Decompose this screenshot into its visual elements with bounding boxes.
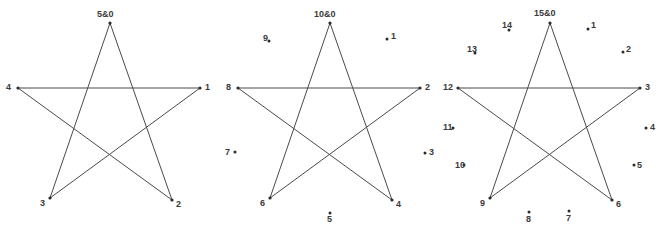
label-star1-bottom-right: 2 — [176, 200, 181, 209]
outer-dot — [645, 127, 648, 130]
vertex-dot — [328, 21, 331, 24]
label-star2-dot-3: 3 — [429, 148, 434, 157]
label-star3-dot-11: 11 — [443, 123, 453, 132]
star-diagram-mod-15: 15&0 3 6 9 12 1 2 4 5 7 8 10 11 13 14 — [440, 0, 660, 229]
figure-container: 5&0 1 2 3 4 10&0 2 4 6 8 1 — [0, 0, 660, 229]
star-edge — [330, 23, 392, 200]
vertex-dot — [488, 196, 491, 199]
vertex-dot — [236, 86, 239, 89]
label-star2-dot-7: 7 — [225, 148, 230, 157]
vertex-dot — [108, 21, 111, 24]
star-edge — [490, 23, 550, 198]
label-star2-dot-1: 1 — [391, 32, 396, 41]
star-edge — [490, 88, 640, 198]
label-star3-bottom-left: 9 — [480, 199, 485, 208]
label-star3-dot-4: 4 — [650, 123, 655, 132]
star-edge — [550, 23, 612, 200]
vertex-dot — [390, 198, 393, 201]
vertex-dot — [268, 196, 271, 199]
outer-dot — [587, 28, 590, 31]
label-star1-apex: 5&0 — [97, 10, 114, 19]
star-edge — [50, 88, 200, 198]
star-10-graphic — [220, 0, 440, 229]
vertex-dot — [456, 86, 459, 89]
label-star3-dot-14: 14 — [502, 21, 512, 30]
label-star1-bottom-left: 3 — [40, 199, 45, 208]
outer-dot — [386, 38, 389, 41]
star-edge — [238, 88, 392, 200]
vertex-dot — [610, 198, 613, 201]
vertex-dot — [170, 198, 173, 201]
label-star3-dot-10: 10 — [455, 161, 465, 170]
vertex-dot — [198, 86, 201, 89]
label-star3-right: 3 — [645, 83, 650, 92]
label-star3-bottom-right: 6 — [616, 200, 621, 209]
label-star2-bottom-right: 4 — [396, 200, 401, 209]
star-edge — [270, 23, 330, 198]
star-diagram-mod-10: 10&0 2 4 6 8 1 3 5 7 9 — [220, 0, 440, 229]
outer-dot — [234, 151, 237, 154]
vertex-dot — [16, 86, 19, 89]
label-star3-dot-8: 8 — [526, 215, 531, 224]
vertex-dot — [418, 86, 421, 89]
label-star3-dot-5: 5 — [637, 161, 642, 170]
label-star3-dot-13: 13 — [467, 45, 477, 54]
label-star2-dot-5: 5 — [327, 215, 332, 224]
label-star2-dot-9: 9 — [263, 34, 268, 43]
label-star2-right: 2 — [425, 83, 430, 92]
label-star1-right: 1 — [205, 83, 210, 92]
star-edge — [110, 23, 172, 200]
label-star3-dot-1: 1 — [591, 21, 596, 30]
star-edge — [18, 88, 172, 200]
outer-dot — [622, 51, 625, 54]
star-5-graphic — [0, 0, 220, 229]
vertex-dot — [48, 196, 51, 199]
star-edge — [458, 88, 612, 200]
vertex-dot — [548, 21, 551, 24]
label-star1-left: 4 — [6, 83, 11, 92]
label-star3-left: 12 — [443, 83, 453, 92]
star-edge — [270, 88, 420, 198]
label-star3-apex: 15&0 — [534, 9, 556, 18]
label-star3-dot-2: 2 — [626, 45, 631, 54]
label-star2-bottom-left: 6 — [260, 199, 265, 208]
star-diagram-mod-5: 5&0 1 2 3 4 — [0, 0, 220, 229]
star-edge — [50, 23, 110, 198]
vertex-dot — [638, 86, 641, 89]
outer-dot — [633, 164, 636, 167]
label-star2-left: 8 — [226, 83, 231, 92]
label-star2-apex: 10&0 — [314, 10, 336, 19]
outer-dot — [424, 152, 427, 155]
star-15-graphic — [440, 0, 660, 229]
label-star3-dot-7: 7 — [566, 214, 571, 223]
